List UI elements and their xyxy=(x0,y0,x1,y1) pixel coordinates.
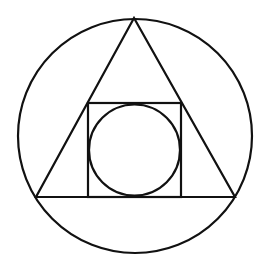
triangle xyxy=(36,18,235,197)
inner-circle xyxy=(89,105,180,196)
outer-circle xyxy=(18,19,252,253)
geometric-diagram xyxy=(0,0,262,271)
